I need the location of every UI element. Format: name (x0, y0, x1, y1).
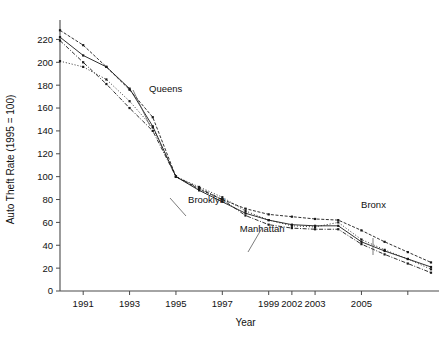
x-tick-label: 1997 (212, 298, 233, 309)
y-tick-label: 220 (37, 34, 53, 45)
data-point (314, 218, 316, 220)
y-tick-label: 200 (37, 57, 53, 68)
data-point (128, 100, 130, 102)
data-point (175, 176, 177, 178)
data-point (82, 44, 84, 46)
data-point (360, 243, 362, 245)
data-point (59, 60, 61, 62)
data-point (430, 268, 432, 270)
data-point (384, 241, 386, 243)
data-point (407, 258, 409, 260)
data-point (291, 227, 293, 229)
data-point (337, 228, 339, 230)
data-point (337, 219, 339, 221)
x-tick-label: 1995 (165, 298, 186, 309)
data-point (314, 225, 316, 227)
annotation-bronx: Bronx (361, 199, 386, 210)
data-point (407, 251, 409, 253)
y-tick-label: 60 (42, 217, 53, 228)
data-point (198, 189, 200, 191)
auto-theft-rate-chart: 020406080100120140160180200220 199119931… (0, 0, 439, 342)
data-point (430, 272, 432, 274)
data-point (59, 29, 61, 31)
y-tick-label: 0 (48, 285, 53, 296)
data-point (430, 266, 432, 268)
data-point (360, 229, 362, 231)
annotation-queens: Queens (149, 83, 183, 94)
data-point (105, 66, 107, 68)
data-point (244, 210, 246, 212)
data-point (291, 216, 293, 218)
data-point (407, 262, 409, 264)
data-point (59, 36, 61, 38)
data-point (152, 116, 154, 118)
x-axis-title: Year (235, 317, 256, 328)
data-point (268, 219, 270, 221)
y-tick-label: 160 (37, 102, 53, 113)
annotation-brooklyn: Brooklyn (188, 194, 225, 205)
x-tick-label: 2005 (351, 298, 372, 309)
y-tick-label: 180 (37, 80, 53, 91)
data-point (337, 225, 339, 227)
chart-canvas: 020406080100120140160180200220 199119931… (0, 0, 439, 342)
x-tick-label: 2003 (304, 298, 325, 309)
x-tick-label: 1991 (73, 298, 94, 309)
y-tick-label: 140 (37, 125, 53, 136)
data-point (360, 238, 362, 240)
data-point (244, 208, 246, 210)
data-point (268, 213, 270, 215)
y-axis-title: Auto Theft Rate (1995 = 100) (5, 95, 16, 225)
data-point (384, 250, 386, 252)
y-tick-label: 100 (37, 171, 53, 182)
data-point (430, 261, 432, 263)
data-point (360, 241, 362, 243)
data-point (291, 224, 293, 226)
data-point (314, 228, 316, 230)
y-tick-label: 80 (42, 194, 53, 205)
x-tick-label: 1999 (258, 298, 279, 309)
data-point (337, 221, 339, 223)
data-point (198, 187, 200, 189)
x-tick-label: 1993 (119, 298, 140, 309)
data-point (244, 214, 246, 216)
data-point (82, 54, 84, 56)
data-point (152, 130, 154, 132)
data-point (128, 88, 130, 90)
data-point (59, 39, 61, 41)
y-tick-label: 120 (37, 148, 53, 159)
data-point (82, 66, 84, 68)
data-point (105, 78, 107, 80)
data-point (128, 107, 130, 109)
data-point (384, 253, 386, 255)
y-tick-label: 40 (42, 240, 53, 251)
data-point (244, 212, 246, 214)
data-point (152, 125, 154, 127)
data-point (82, 61, 84, 63)
y-tick-label: 20 (42, 263, 53, 274)
data-point (105, 83, 107, 85)
x-tick-label: 2002 (281, 298, 302, 309)
